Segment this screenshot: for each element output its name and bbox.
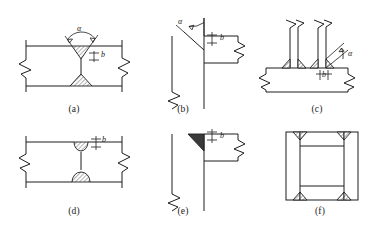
panel-a-angle-label: α (77, 24, 81, 33)
panel-d-gap-label: b (102, 135, 106, 144)
panel-b-gap-label: b (220, 33, 224, 42)
panel-a-caption: (a) (54, 104, 94, 114)
panel-c-gap-label: b (322, 70, 326, 79)
panel-f-caption: (f) (300, 206, 340, 216)
welding-details-figure: α b (a) α b (b) (0, 0, 377, 235)
panel-d-caption: (d) (54, 206, 94, 216)
panel-e-gap-label: b (220, 131, 224, 140)
panel-c-caption: (c) (297, 104, 337, 114)
panel-d-drawing (14, 128, 134, 206)
panel-a-drawing (14, 14, 134, 104)
panel-b-angle-label: α (178, 17, 182, 26)
panel-f-drawing (272, 124, 372, 214)
panel-b-drawing (150, 10, 250, 110)
panel-b-caption: (b) (163, 104, 203, 114)
panel-e-drawing (150, 124, 250, 214)
panel-c-angle-label: α (348, 49, 352, 58)
panel-e-caption: (e) (163, 206, 203, 216)
panel-a-gap-label: b (101, 50, 105, 59)
panel-c-drawing (256, 18, 376, 110)
